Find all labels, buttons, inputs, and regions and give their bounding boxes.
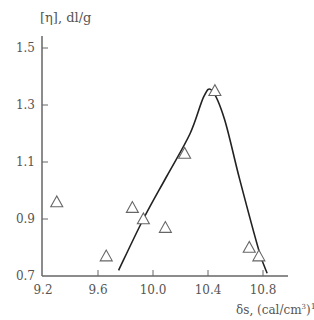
y-tick-label: 0.9 [16,212,35,226]
triangle-marker-icon [137,213,149,224]
x-axis-label: δs, (cal/cm3)1/2 [236,302,314,317]
x-tick-label: 10.0 [140,283,167,297]
data-markers [51,85,265,261]
y-tick-label: 0.7 [16,269,35,283]
triangle-marker-icon [243,242,255,253]
y-axis-label: [η], dl/g [40,10,91,25]
triangle-marker-icon [159,222,171,233]
trend-curve [119,89,268,273]
x-tick-label: 10.8 [250,283,277,297]
y-tick-label: 1.5 [16,41,35,55]
x-tick-label: 9.6 [88,283,107,297]
x-ticks: 9.29.610.010.410.8 [33,270,276,297]
y-ticks: 0.70.91.11.31.5 [16,41,48,283]
y-tick-label: 1.3 [16,98,35,112]
y-tick-label: 1.1 [16,155,35,169]
triangle-marker-icon [126,202,138,213]
x-tick-label: 9.2 [33,283,52,297]
triangle-marker-icon [51,196,63,207]
x-tick-label: 10.4 [195,283,222,297]
triangle-marker-icon [100,250,112,261]
chart: [η], dl/g 0.70.91.11.31.5 9.29.610.010.4… [0,0,314,320]
